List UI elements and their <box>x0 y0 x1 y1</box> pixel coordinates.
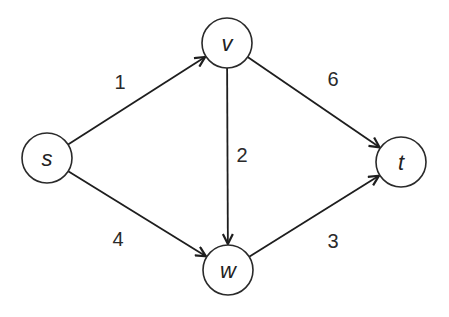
node-label: w <box>220 258 238 283</box>
edge-w-t <box>249 176 379 257</box>
node-w: w <box>203 245 253 295</box>
edge-s-v <box>68 57 205 145</box>
graph-diagram: svwt 14263 <box>0 0 449 317</box>
edge-weight-w-t: 3 <box>327 230 338 252</box>
node-s: s <box>22 133 72 183</box>
edge-v-w <box>227 68 228 244</box>
node-label: s <box>42 146 53 171</box>
edge-weight-s-v: 1 <box>114 71 125 93</box>
node-v: v <box>202 18 252 68</box>
nodes: svwt <box>22 18 426 295</box>
edge-weight-v-t: 6 <box>327 68 338 90</box>
edge-weight-v-w: 2 <box>236 144 247 166</box>
node-t: t <box>376 137 426 187</box>
edge-weight-s-w: 4 <box>112 228 123 250</box>
node-label: t <box>398 150 405 175</box>
edge-s-w <box>68 171 206 256</box>
edge-v-t <box>248 57 380 147</box>
